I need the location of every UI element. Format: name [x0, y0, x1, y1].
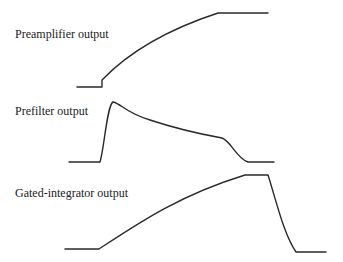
prefilter-waveform — [69, 102, 274, 162]
preamplifier-label: Preamplifier output — [15, 28, 109, 40]
preamplifier-waveform — [77, 13, 268, 87]
prefilter-label: Prefilter output — [15, 105, 88, 117]
gated-integrator-label: Gated-integrator output — [15, 187, 128, 199]
